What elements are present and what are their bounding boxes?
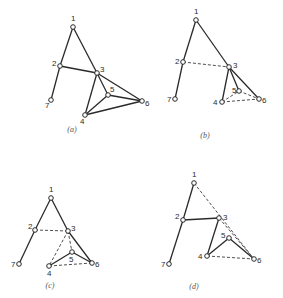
node-2 — [181, 60, 186, 65]
node-6 — [140, 99, 145, 104]
node-label: 4 — [80, 117, 85, 126]
node-label: 6 — [95, 260, 100, 269]
edge-4-6 — [207, 256, 254, 259]
edge-2-3 — [183, 62, 229, 67]
node-label: 6 — [145, 99, 150, 108]
panel-a: 1234567(a) — [45, 14, 150, 134]
node-label: 1 — [71, 14, 76, 23]
node-3 — [66, 229, 71, 234]
panel-caption: (c) — [46, 281, 55, 290]
node-2 — [58, 64, 63, 69]
panel-caption: (d) — [189, 282, 199, 291]
edge-2-3 — [60, 66, 97, 73]
node-4 — [205, 254, 210, 259]
node-label: 2 — [52, 59, 57, 68]
edge-1-2 — [35, 198, 51, 230]
node-label: 5 — [232, 86, 237, 95]
node-label: 6 — [262, 96, 267, 105]
node-4 — [47, 264, 52, 269]
node-7 — [167, 262, 172, 267]
node-label: 5 — [69, 255, 74, 264]
edge-1-3 — [73, 27, 97, 73]
edge-1-3 — [196, 20, 229, 67]
edge-1-2 — [183, 20, 196, 62]
node-label: 3 — [71, 224, 76, 233]
node-3 — [227, 65, 232, 70]
node-1 — [192, 181, 197, 186]
node-label: 4 — [47, 269, 52, 278]
node-label: 1 — [49, 185, 54, 194]
node-label: 4 — [198, 252, 203, 261]
node-label: 7 — [45, 101, 50, 110]
edge-2-7 — [51, 66, 60, 100]
edge-1-3 — [51, 198, 68, 231]
node-1 — [49, 196, 54, 201]
edge-1-2 — [60, 27, 73, 66]
panel-b: 1234567(b) — [167, 7, 267, 140]
node-4 — [220, 100, 225, 105]
edge-3-4 — [85, 73, 97, 115]
node-6 — [257, 97, 262, 102]
node-5 — [70, 250, 75, 255]
node-5 — [227, 236, 232, 241]
node-2 — [181, 218, 186, 223]
node-7 — [173, 97, 178, 102]
edge-5-6 — [229, 238, 254, 259]
edge-4-6 — [222, 99, 259, 102]
edge-1-2 — [183, 183, 194, 220]
graph-figure: 1234567(a) 1234567(b) 1234567(c) 1234567… — [0, 0, 283, 298]
edge-2-7 — [19, 230, 35, 264]
node-label: 2 — [28, 222, 33, 231]
edge-2-7 — [169, 220, 183, 264]
panel-c: 1234567(c) — [11, 185, 100, 290]
edge-2-7 — [175, 62, 183, 99]
panel-caption: (b) — [200, 131, 210, 140]
node-label: 1 — [192, 170, 197, 179]
edge-5-6 — [72, 252, 92, 263]
node-label: 2 — [175, 57, 180, 66]
node-label: 2 — [175, 212, 180, 221]
node-3 — [95, 71, 100, 76]
node-6 — [90, 261, 95, 266]
node-6 — [252, 257, 257, 262]
panel-caption: (a) — [67, 125, 77, 134]
node-label: 5 — [110, 85, 115, 94]
node-label: 6 — [257, 256, 262, 265]
edge-3-4 — [222, 67, 229, 102]
node-label: 3 — [100, 65, 105, 74]
panel-d: 1234567(d) — [161, 170, 262, 291]
node-label: 5 — [221, 231, 226, 240]
edge-2-3 — [35, 230, 68, 231]
node-label: 3 — [223, 213, 228, 222]
node-5 — [237, 89, 242, 94]
node-label: 3 — [233, 61, 238, 70]
node-2 — [33, 228, 38, 233]
node-label: 7 — [167, 95, 172, 104]
node-label: 4 — [213, 98, 218, 107]
edge-2-3 — [183, 218, 219, 220]
node-label: 7 — [11, 260, 16, 269]
node-label: 1 — [194, 7, 199, 16]
node-3 — [217, 216, 222, 221]
node-1 — [194, 18, 199, 23]
node-label: 7 — [161, 260, 166, 269]
node-1 — [71, 25, 76, 30]
node-7 — [17, 262, 22, 267]
